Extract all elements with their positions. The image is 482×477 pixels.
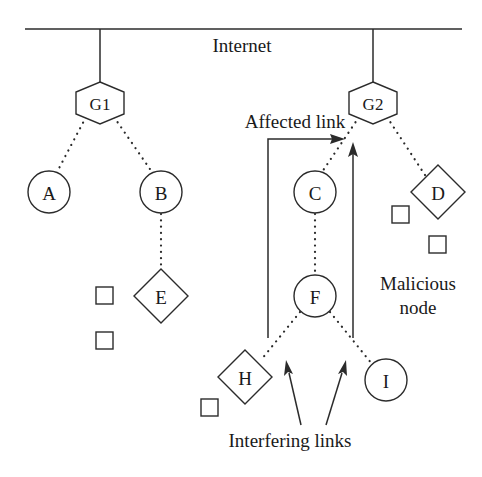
malicious-node-label-line1: Malicious <box>380 273 456 294</box>
node-h[interactable]: H <box>218 350 272 404</box>
internet-backbone-group: Internet <box>25 29 462 82</box>
gateway-g1[interactable]: G1 <box>76 82 124 124</box>
obstacle-square <box>429 236 446 253</box>
node-a-label: A <box>42 183 56 204</box>
diagram-canvas: Internet G1 G2 <box>0 0 482 477</box>
node-a[interactable]: A <box>28 171 70 213</box>
node-f-label: F <box>310 287 321 308</box>
wireless-links-group <box>57 117 425 364</box>
network-topology-figure: Internet G1 G2 <box>0 0 482 477</box>
affected-link-arrowhead <box>330 134 345 144</box>
node-e[interactable]: E <box>134 269 188 323</box>
interfering-link-arrow-line-left <box>289 373 301 425</box>
interfering-link-arrow-line-right <box>326 373 342 425</box>
node-d-label: D <box>431 183 445 204</box>
gateway-g2-label: G2 <box>363 95 384 114</box>
interfering-links-label: Interfering links <box>229 430 352 451</box>
node-d[interactable]: D <box>411 165 465 219</box>
obstacle-square <box>96 287 113 304</box>
node-i[interactable]: I <box>365 359 407 401</box>
node-c-label: C <box>309 183 322 204</box>
internet-label: Internet <box>212 35 272 56</box>
obstacle-square <box>392 206 409 223</box>
node-h-label: H <box>238 368 252 389</box>
obstacle-square <box>201 399 218 416</box>
link-f-h <box>261 312 300 360</box>
node-b-label: B <box>155 183 168 204</box>
link-g1-a <box>57 117 86 172</box>
node-f[interactable]: F <box>294 275 336 317</box>
link-g2-d <box>387 117 425 175</box>
gateway-g1-label: G1 <box>90 95 111 114</box>
affected-link-label: Affected link <box>245 111 346 132</box>
node-i-label: I <box>383 371 389 392</box>
node-c[interactable]: C <box>294 171 336 213</box>
link-g1-b <box>114 117 152 172</box>
link-f-i <box>330 312 372 364</box>
node-e-label: E <box>155 287 167 308</box>
node-b[interactable]: B <box>140 171 182 213</box>
obstacle-square <box>96 332 113 349</box>
malicious-node-label-line2: node <box>400 297 437 318</box>
gateway-g2[interactable]: G2 <box>349 82 397 124</box>
